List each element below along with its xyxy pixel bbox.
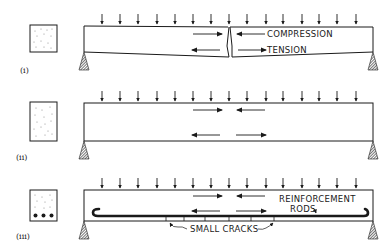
small-cracks xyxy=(166,217,274,221)
compression-label: COMPRESSION xyxy=(267,29,333,39)
panel-label-i: (i) xyxy=(20,66,29,75)
stress-arrows-i xyxy=(192,34,266,50)
reinforcement-rod xyxy=(93,209,368,216)
tension-label: TENSION xyxy=(266,45,307,55)
reinforcement-label-line2: RODS xyxy=(290,204,316,214)
panel-label-iii: (iii) xyxy=(16,232,30,241)
cross-section-i xyxy=(30,25,57,52)
panel-label-ii: (ii) xyxy=(16,153,27,162)
small-cracks-label: SMALL CRACKS xyxy=(190,224,258,234)
beam-diagram: (i) COMPRESSION TENSION xyxy=(0,0,392,252)
reinforcement-bars-section xyxy=(34,214,54,218)
support-left-i xyxy=(79,52,89,70)
load-arrows-ii xyxy=(102,91,356,101)
stress-arrows-iii xyxy=(192,196,266,211)
cross-section-iii xyxy=(30,190,57,221)
support-left-iii xyxy=(79,221,89,239)
reinforcement-label-line1: REINFORCEMENT xyxy=(279,194,356,204)
stress-arrows-ii xyxy=(192,110,266,135)
support-right-ii xyxy=(368,141,378,159)
beam-ii xyxy=(84,103,373,141)
cross-section-ii xyxy=(30,102,57,141)
support-right-iii xyxy=(368,221,378,239)
support-right-i xyxy=(368,52,378,70)
load-arrows-i xyxy=(102,14,356,24)
panel-ii: (ii) xyxy=(16,91,378,162)
panel-iii: (iii) REINFORCEMENT RODS SMALL CRACKS xyxy=(16,178,378,241)
load-arrows-iii xyxy=(102,178,356,188)
panel-i: (i) COMPRESSION TENSION xyxy=(20,14,378,75)
support-left-ii xyxy=(79,141,89,159)
